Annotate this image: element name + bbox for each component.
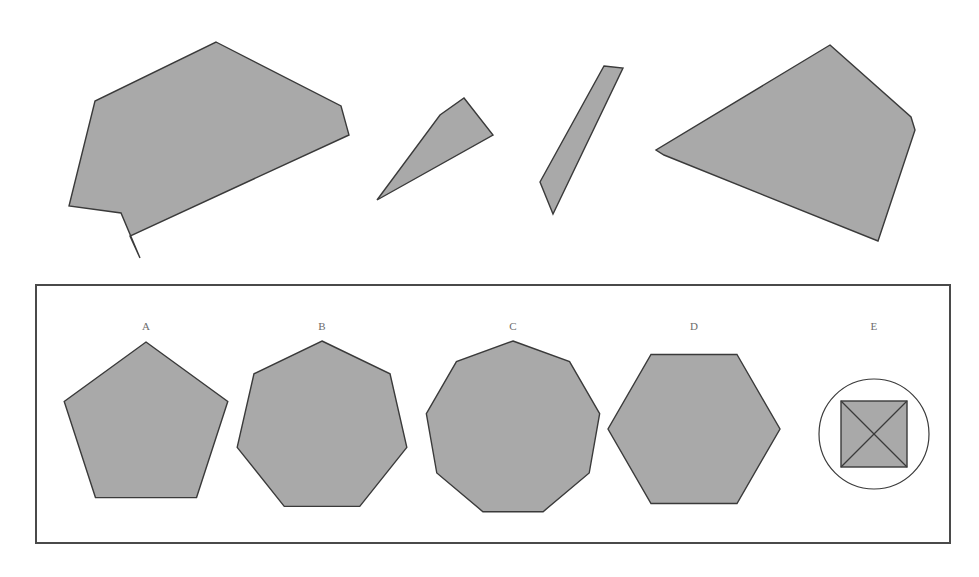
option-e[interactable]: E [819,320,929,489]
option-d-hexagon[interactable] [608,355,780,504]
puzzle-page: A B C D [0,0,979,577]
option-d-label: D [690,320,698,332]
option-c-label: C [509,320,517,332]
puzzle-pieces-row [69,42,915,258]
puzzle-canvas: A B C D [0,0,979,577]
option-c[interactable]: C [426,320,599,512]
option-a[interactable]: A [64,320,228,498]
option-b-heptagon[interactable] [237,341,407,506]
option-e-label: E [870,320,877,332]
option-a-label: A [142,320,150,332]
option-b-label: B [318,320,326,332]
piece-large-kite-polygon [656,45,915,241]
option-d[interactable]: D [608,320,780,503]
option-b[interactable]: B [237,320,407,506]
option-a-pentagon[interactable] [64,342,228,498]
answer-options-panel: A B C D [36,285,950,543]
option-c-nonagon[interactable] [426,341,599,512]
piece-parallelogram-narrow [540,66,623,214]
piece-parallelogram-wide [377,98,493,200]
piece-large-notched-polygon [69,42,349,258]
